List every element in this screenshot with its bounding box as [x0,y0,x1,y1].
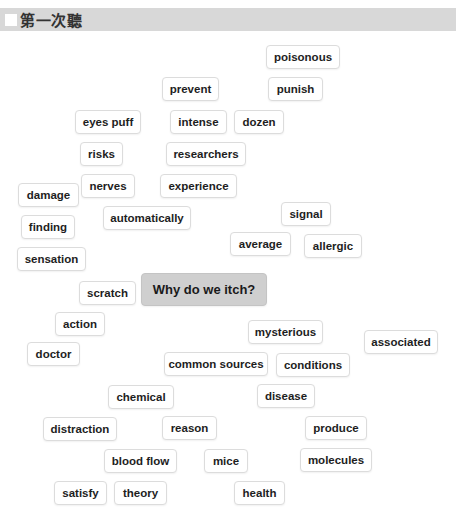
word-chip-allergic[interactable]: allergic [304,234,362,258]
word-chip-chemical[interactable]: chemical [108,385,174,409]
word-chip-poisonous[interactable]: poisonous [266,45,340,69]
word-chip-common-sources[interactable]: common sources [164,352,268,376]
topic-chip: Why do we itch? [141,273,267,306]
word-chip-doctor[interactable]: doctor [27,342,80,366]
word-chip-damage[interactable]: damage [18,183,79,207]
word-chip-intense[interactable]: intense [170,110,227,134]
word-chip-action[interactable]: action [55,312,105,336]
word-chip-scratch[interactable]: scratch [79,281,136,305]
word-chip-dozen[interactable]: dozen [234,110,284,134]
word-chip-blood-flow[interactable]: blood flow [104,449,177,473]
word-chip-satisfy[interactable]: satisfy [54,481,107,505]
word-chip-signal[interactable]: signal [281,202,331,226]
word-chip-mice[interactable]: mice [204,449,248,473]
word-chip-associated[interactable]: associated [364,330,438,354]
word-chip-finding[interactable]: finding [21,215,75,239]
word-chip-researchers[interactable]: researchers [166,142,246,166]
word-chip-punish[interactable]: punish [268,77,323,101]
word-chip-reason[interactable]: reason [162,416,217,440]
word-chip-nerves[interactable]: nerves [81,174,135,198]
word-chip-health[interactable]: health [234,481,285,505]
word-chip-experience[interactable]: experience [160,174,237,198]
word-chip-mysterious[interactable]: mysterious [248,320,323,344]
word-chip-disease[interactable]: disease [257,384,315,408]
word-chip-produce[interactable]: produce [305,416,367,440]
word-chip-risks[interactable]: risks [80,142,123,166]
word-board: Why do we itch? poisonouspreventpunishey… [0,0,456,518]
word-chip-distraction[interactable]: distraction [43,417,117,441]
word-chip-molecules[interactable]: molecules [300,448,372,472]
word-chip-conditions[interactable]: conditions [276,353,350,377]
word-chip-automatically[interactable]: automatically [103,206,191,230]
word-chip-sensation[interactable]: sensation [17,247,86,271]
word-chip-eyes-puff[interactable]: eyes puff [75,110,141,134]
word-chip-average[interactable]: average [230,232,291,256]
word-chip-prevent[interactable]: prevent [162,77,219,101]
word-chip-theory[interactable]: theory [114,481,167,505]
